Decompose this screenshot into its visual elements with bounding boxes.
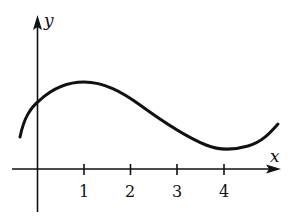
tick-label-1: 1: [79, 182, 89, 201]
x-axis-label: x: [270, 146, 280, 166]
y-axis-label: y: [44, 10, 54, 30]
tick-label-3: 3: [172, 182, 182, 201]
tick-label-4: 4: [219, 182, 229, 201]
function-graph: [0, 0, 294, 222]
tick-label-2: 2: [125, 182, 135, 201]
function-curve: [20, 82, 278, 149]
